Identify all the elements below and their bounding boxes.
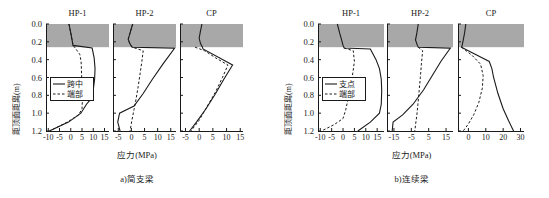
concrete-band <box>458 24 524 47</box>
plot-area-b-1 <box>387 24 453 133</box>
chart-group-b: 距顶面距离(m) 0.00.20.40.60.81.01.2 HP-1-10-5… <box>274 0 549 198</box>
panel-title-b-2: CP <box>458 8 524 18</box>
plot-area-a-1 <box>113 24 176 133</box>
panel-a-cp: CP-5051015 <box>180 0 243 198</box>
y-tick-a-4: 0.8 <box>22 90 42 100</box>
panel-title-a-0: HP-1 <box>46 8 109 18</box>
y-tick-a-0: 0.0 <box>22 19 42 29</box>
concrete-band <box>180 24 243 47</box>
y-tick-b-2: 0.4 <box>294 55 314 65</box>
y-tick-b-3: 0.6 <box>294 73 314 83</box>
chart-group-a: 距顶面距离(m) 0.00.20.40.60.81.01.2 HP-1-10-5… <box>0 0 274 198</box>
panel-title-b-0: HP-1 <box>318 8 384 18</box>
legend-label-dashed-a: 端部 <box>67 88 83 99</box>
x-tick-label-a-2-4: 15 <box>230 133 250 142</box>
x-tick-label-b-2-3: 30 <box>511 133 531 142</box>
y-tick-a-2: 0.4 <box>22 55 42 65</box>
x-axis-label-b: 应力(MPa) <box>274 148 549 160</box>
y-tick-a-3: 0.6 <box>22 73 42 83</box>
panel-b-cp: CP0102030 <box>458 0 524 198</box>
concrete-band <box>387 24 453 47</box>
legend-label-dashed-b: 端部 <box>339 88 355 99</box>
panel-a-hp-2: HP-2-5051015 <box>113 0 176 198</box>
caption-a: a)简支梁 <box>0 172 274 184</box>
concrete-band <box>318 24 384 47</box>
panel-b-hp-2: HP-2-15-5515 <box>387 0 453 198</box>
y-tick-b-5: 1.0 <box>294 108 314 118</box>
legend-b: 支点端部 <box>322 77 366 101</box>
panel-title-a-2: CP <box>180 8 243 18</box>
y-tick-b-1: 0.2 <box>294 37 314 47</box>
y-axis-label-a: 距顶面距离(m) <box>10 83 21 135</box>
figure-root: 距顶面距离(m) 0.00.20.40.60.81.01.2 HP-1-10-5… <box>0 0 549 198</box>
concrete-band <box>113 24 176 47</box>
x-tick-label-b-1-3: 15 <box>436 133 456 142</box>
plot-area-b-2 <box>458 24 524 133</box>
concrete-band <box>46 24 109 47</box>
y-tick-b-4: 0.8 <box>294 90 314 100</box>
series-line-端部 <box>461 47 483 131</box>
y-tick-a-5: 1.0 <box>22 108 42 118</box>
panel-title-b-1: HP-2 <box>387 8 453 18</box>
legend-a: 跨中端部 <box>50 77 94 101</box>
y-tick-a-1: 0.2 <box>22 37 42 47</box>
panel-title-a-1: HP-2 <box>113 8 176 18</box>
caption-b: b)连续梁 <box>274 172 549 184</box>
x-axis-label-a: 应力(MPa) <box>0 148 274 160</box>
y-axis-label-b: 距顶面距离(m) <box>282 83 293 135</box>
plot-area-a-2 <box>180 24 243 133</box>
series-line-端部 <box>415 47 423 131</box>
y-tick-b-0: 0.0 <box>294 19 314 29</box>
